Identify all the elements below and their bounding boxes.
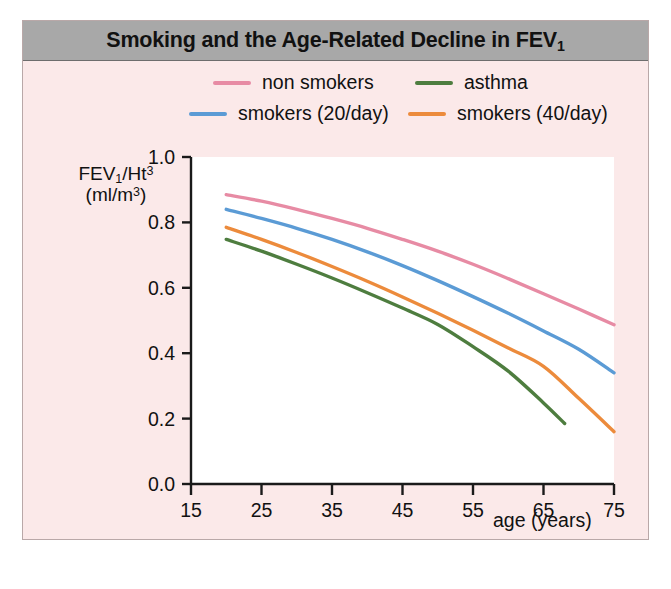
y-tick-label: 0.4 <box>148 342 175 364</box>
x-tick-label: 25 <box>251 499 273 521</box>
y-tick-label: 0.8 <box>148 211 175 233</box>
figure-panel: Smoking and the Age-Related Decline in F… <box>22 20 649 540</box>
x-tick-label: 75 <box>603 499 625 521</box>
x-tick-label: 35 <box>321 499 343 521</box>
x-tick-label: 55 <box>462 499 484 521</box>
plot-background <box>191 157 614 484</box>
chart-plot-area: 0.00.20.40.60.81.015253545556575 <box>23 21 648 539</box>
y-tick-label: 0.2 <box>148 408 175 430</box>
x-tick-label: 15 <box>180 499 202 521</box>
y-tick-label: 0.0 <box>148 473 175 495</box>
y-tick-label: 0.6 <box>148 277 175 299</box>
chart-svg: 0.00.20.40.60.81.015253545556575 <box>23 21 650 541</box>
x-tick-label: 45 <box>392 499 414 521</box>
x-tick-label: 65 <box>533 499 555 521</box>
y-tick-label: 1.0 <box>148 146 175 168</box>
